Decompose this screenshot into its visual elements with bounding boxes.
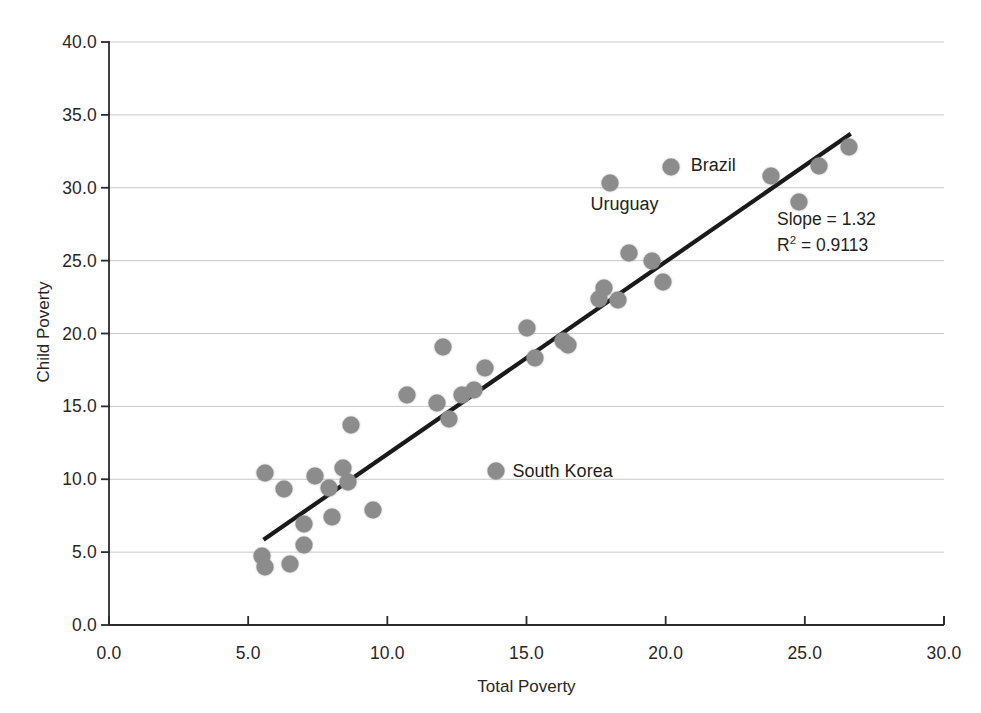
data-point	[526, 350, 543, 367]
x-tick-label-5: 5.0	[236, 643, 261, 664]
data-point	[340, 474, 357, 491]
r-squared-annotation-value: = 0.9113	[796, 235, 868, 255]
x-tick-label-15: 15.0	[509, 643, 544, 664]
data-point	[560, 337, 577, 354]
y-tick-label-30: 30.0	[51, 177, 97, 198]
data-point	[476, 360, 493, 377]
data-point	[440, 411, 457, 428]
y-tick-label-15: 15.0	[51, 396, 97, 417]
x-tick-label-30: 30.0	[927, 643, 962, 664]
data-point	[465, 382, 482, 399]
data-point	[841, 138, 858, 155]
data-point	[281, 555, 298, 572]
data-point-uruguay	[602, 175, 619, 192]
y-axis-title: Child Poverty	[34, 272, 54, 392]
data-point-brazil	[663, 159, 680, 176]
brazil-label: Brazil	[691, 155, 736, 176]
data-point	[643, 252, 660, 269]
data-point	[365, 501, 382, 518]
y-tick-label-10: 10.0	[51, 469, 97, 490]
x-tick-label-20: 20.0	[648, 643, 683, 664]
data-point	[323, 509, 340, 526]
data-point	[610, 291, 627, 308]
data-point	[276, 481, 293, 498]
data-point	[518, 319, 535, 336]
y-tick-label-5: 5.0	[51, 542, 97, 563]
data-point	[810, 157, 827, 174]
y-tick-label-20: 20.0	[51, 323, 97, 344]
r-squared-annotation-base: R	[777, 235, 790, 255]
data-point	[398, 386, 415, 403]
data-point	[256, 465, 273, 482]
x-tick-label-10: 10.0	[370, 643, 405, 664]
slope-annotation: Slope = 1.32	[777, 209, 876, 230]
y-tick-label-0: 0.0	[51, 615, 97, 636]
data-point	[295, 516, 312, 533]
y-tick-label-40: 40.0	[51, 32, 97, 53]
r-squared-annotation: R2 = 0.9113	[777, 235, 868, 256]
data-point	[343, 417, 360, 434]
y-tick-label-35: 35.0	[51, 104, 97, 125]
x-axis-title: Total Poverty	[407, 677, 647, 697]
data-point	[621, 245, 638, 262]
data-point-south-korea	[487, 462, 504, 479]
south-korea-label: South Korea	[513, 461, 613, 482]
data-point	[763, 168, 780, 185]
data-point	[429, 395, 446, 412]
data-point	[435, 338, 452, 355]
uruguay-label: Uruguay	[591, 194, 659, 215]
data-point	[256, 558, 273, 575]
data-point	[654, 274, 671, 291]
data-point	[295, 536, 312, 553]
y-tick-label-25: 25.0	[51, 250, 97, 271]
data-point	[320, 479, 337, 496]
plot-canvas	[0, 0, 981, 713]
scatter-chart-figure: 0.05.010.015.020.025.030.035.040.0 0.05.…	[0, 0, 981, 713]
x-tick-label-0: 0.0	[97, 643, 122, 664]
x-tick-label-25: 25.0	[787, 643, 822, 664]
